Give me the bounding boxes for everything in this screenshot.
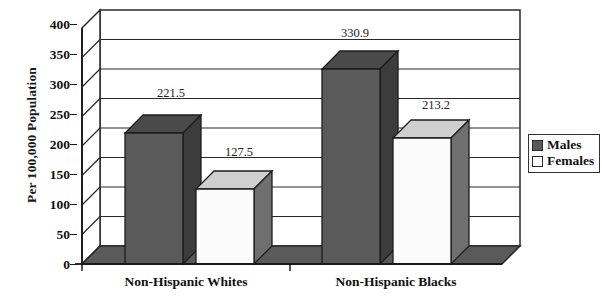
legend-label-females: Females [547, 154, 594, 168]
bar-black-males [322, 51, 398, 264]
data-label-black-males: 330.9 [320, 26, 390, 41]
x-axis-category-label-0: Non-Hispanic Whites [82, 274, 290, 290]
legend: Males Females [528, 134, 600, 173]
bar-white-females [196, 171, 272, 264]
x-axis [75, 264, 502, 271]
data-label-white-females: 127.5 [207, 145, 271, 160]
legend-item-males: Males [532, 137, 594, 153]
data-label-black-females: 213.2 [404, 98, 468, 113]
plot-area [0, 0, 602, 300]
legend-swatch-males-icon [532, 140, 543, 151]
x-axis-category-label-1: Non-Hispanic Blacks [290, 274, 502, 290]
legend-item-females: Females [532, 153, 594, 169]
bar-chart: Per 100,000 Population 400 350 300 250 2… [0, 0, 602, 300]
data-label-white-males: 221.5 [139, 86, 203, 101]
legend-label-males: Males [547, 138, 582, 152]
bar-white-males [125, 115, 201, 264]
legend-swatch-females-icon [532, 156, 543, 167]
bar-black-females [393, 120, 469, 264]
